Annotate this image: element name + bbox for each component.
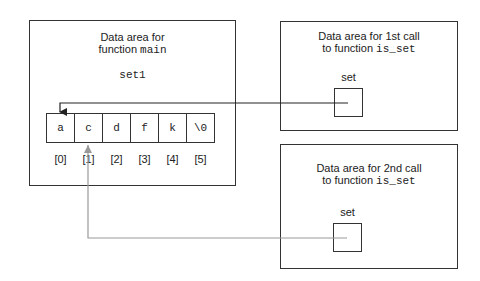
call2-pointer-arrow (84, 145, 347, 238)
arrowhead-icon (84, 145, 92, 153)
call1-pointer-arrow (60, 103, 348, 112)
pointer-arrows (0, 0, 480, 281)
